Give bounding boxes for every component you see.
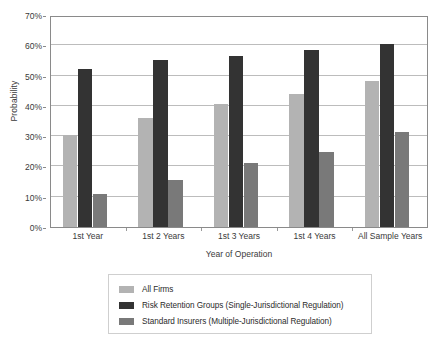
legend-label: Risk Retention Groups (Single-Jurisdicti…: [142, 301, 344, 310]
x-tick-mark: [352, 228, 353, 231]
bar: [365, 81, 380, 227]
bar: [395, 132, 410, 227]
bar: [63, 135, 78, 227]
bar: [304, 50, 319, 227]
y-tick-label: 30%: [25, 132, 42, 142]
y-tick-mark: [43, 16, 46, 17]
bar: [93, 194, 108, 227]
bars-container: [51, 17, 427, 227]
y-tick-mark: [43, 228, 46, 229]
bar-group: [138, 17, 183, 227]
y-tick-label: 50%: [25, 72, 42, 82]
legend-item: All Firms: [109, 281, 371, 297]
y-tick-label: 20%: [25, 162, 42, 172]
bar: [138, 118, 153, 227]
bar: [78, 69, 93, 227]
x-tick-mark: [201, 228, 202, 231]
x-tick-label: All Sample Years: [358, 231, 422, 241]
y-tick-label: 0%: [30, 223, 42, 233]
y-tick-mark: [43, 46, 46, 47]
y-tick-mark: [43, 167, 46, 168]
legend-label: All Firms: [142, 285, 173, 294]
x-tick-mark: [277, 228, 278, 231]
legend-swatch: [119, 302, 134, 309]
y-tick-label: 70%: [25, 11, 42, 21]
legend-item: Risk Retention Groups (Single-Jurisdicti…: [109, 297, 371, 313]
y-tick-label: 40%: [25, 102, 42, 112]
bar: [244, 163, 259, 227]
y-tick-label: 60%: [25, 41, 42, 51]
y-tick-mark: [43, 107, 46, 108]
bar-group: [214, 17, 259, 227]
bar: [153, 60, 168, 227]
chart-legend: All FirmsRisk Retention Groups (Single-J…: [108, 274, 372, 334]
bar-chart-figure: Probability 0%10%20%30%40%50%60%70% 1st …: [0, 0, 444, 348]
bar: [229, 56, 244, 227]
legend-label: Standard Insurers (Multiple-Jurisdiction…: [142, 317, 332, 326]
bar: [214, 104, 229, 227]
x-tick-label: 1st Year: [72, 231, 103, 241]
bar-group: [63, 17, 108, 227]
bar: [289, 94, 304, 227]
bar: [319, 152, 334, 227]
y-tick-mark: [43, 198, 46, 199]
y-axis-ticks: 0%10%20%30%40%50%60%70%: [0, 0, 46, 248]
bar: [168, 180, 183, 227]
x-tick-mark: [126, 228, 127, 231]
x-tick-label: 1st 3 Years: [218, 231, 260, 241]
x-axis-ticks: 1st Year1st 2 Years1st 3 Years1st 4 Year…: [50, 231, 428, 247]
plot-area: [50, 16, 428, 228]
y-tick-mark: [43, 77, 46, 78]
bar-group: [289, 17, 334, 227]
x-axis-title: Year of Operation: [50, 249, 428, 259]
bar: [380, 44, 395, 227]
x-tick-label: 1st 2 Years: [142, 231, 184, 241]
bar-group: [365, 17, 410, 227]
legend-swatch: [119, 286, 134, 293]
legend-swatch: [119, 318, 134, 325]
y-tick-label: 10%: [25, 193, 42, 203]
y-tick-mark: [43, 137, 46, 138]
x-tick-label: 1st 4 Years: [294, 231, 336, 241]
legend-item: Standard Insurers (Multiple-Jurisdiction…: [109, 313, 371, 329]
